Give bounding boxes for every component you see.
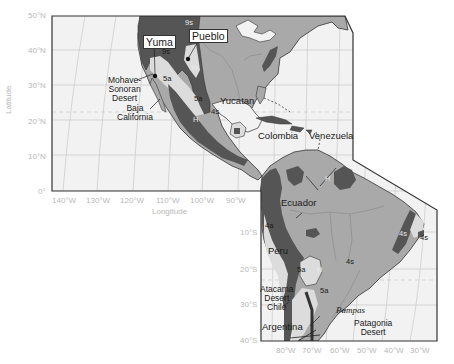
label-mohave-sonoran-desert: Mohave- Sonoran Desert bbox=[108, 76, 141, 103]
lon-tick-120w: 120°W bbox=[120, 196, 144, 205]
x-axis-title: Longitude bbox=[152, 207, 187, 216]
label-pueblo: Pueblo bbox=[189, 29, 228, 43]
lat-tick-0: 0° bbox=[38, 187, 46, 196]
label-pampas: Pampas bbox=[336, 305, 365, 315]
label-argentina: Argentina bbox=[262, 322, 303, 332]
lat-tick-10s: 10°S bbox=[240, 228, 257, 237]
lon-tick-50w: 50°W bbox=[357, 346, 377, 355]
label-patagonia-line2: Desert bbox=[354, 328, 392, 337]
zone-9s-north: 9s bbox=[185, 18, 193, 27]
lat-tick-40s: 40°S bbox=[240, 336, 257, 345]
label-yuma: Yuma bbox=[143, 35, 176, 49]
lon-tick-100w: 100°W bbox=[190, 196, 214, 205]
climate-map bbox=[0, 0, 454, 364]
label-atacama-desert-chile: Atacama Desert Chile bbox=[260, 285, 294, 312]
lon-tick-140w: 140°W bbox=[52, 196, 76, 205]
zone-5a-mexico: 5a bbox=[194, 94, 202, 103]
zone-4a-ecuador: 4a bbox=[265, 221, 273, 230]
label-baja-line2: California bbox=[117, 113, 153, 122]
lon-tick-30w: 30°W bbox=[410, 346, 430, 355]
lon-tick-90w: 90°W bbox=[226, 196, 246, 205]
zone-4s-brazil-inland: 4s bbox=[399, 229, 407, 238]
label-yucatan: Yucatan bbox=[220, 96, 254, 106]
lon-tick-60w: 60°W bbox=[330, 346, 350, 355]
lat-tick-10n: 10°N bbox=[28, 152, 46, 161]
lon-tick-80w: 80°W bbox=[276, 346, 296, 355]
label-venezuela: Venezuela bbox=[309, 131, 353, 141]
label-mohave-line3: Desert bbox=[108, 94, 141, 103]
label-atacama-line3: Chile bbox=[260, 303, 294, 312]
lon-tick-70w: 70°W bbox=[302, 346, 322, 355]
zone-5a-peru: 5a bbox=[297, 265, 305, 274]
zone-4s-mexico: 4s bbox=[211, 107, 219, 116]
lon-tick-110w: 110°W bbox=[156, 196, 180, 205]
zone-h-venezuela: H bbox=[325, 174, 330, 183]
label-peru: Peru bbox=[268, 246, 288, 256]
pueblo-marker bbox=[186, 57, 190, 61]
zone-5a-sonoran: 5a bbox=[163, 74, 171, 83]
lat-tick-50n: 50°N bbox=[28, 11, 46, 20]
zone-5a-argentina: 5a bbox=[320, 286, 328, 295]
label-baja-california: Baja California bbox=[117, 104, 153, 122]
lat-tick-30n: 30°N bbox=[28, 81, 46, 90]
zone-h-mexico: H bbox=[193, 115, 198, 124]
label-ecuador: Ecuador bbox=[281, 198, 316, 208]
lon-tick-130w: 130°W bbox=[86, 196, 110, 205]
lat-tick-20n: 20°N bbox=[28, 117, 46, 126]
lat-tick-30s: 30°S bbox=[240, 300, 257, 309]
lon-tick-40w: 40°W bbox=[384, 346, 404, 355]
zone-9s-east: 9s bbox=[191, 63, 199, 72]
zone-9s-west: 9s bbox=[162, 47, 170, 56]
label-colombia: Colombia bbox=[258, 131, 298, 141]
yuma-marker bbox=[153, 74, 157, 78]
zone-h-andes: H bbox=[317, 265, 322, 274]
y-axis-title: Latitude bbox=[4, 86, 13, 114]
yucatan-dark-spot bbox=[234, 128, 240, 134]
lat-tick-20s: 20°S bbox=[240, 265, 257, 274]
zone-4s-brazil-coast: 4s bbox=[420, 233, 428, 242]
zone-4s-chaco: 4s bbox=[346, 257, 354, 266]
label-patagonia-desert: Patagonia Desert bbox=[354, 319, 392, 337]
lat-tick-40n: 40°N bbox=[28, 46, 46, 55]
